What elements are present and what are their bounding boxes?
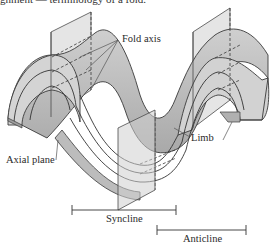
label-limb: Limb — [191, 133, 214, 144]
label-fold-axis: Fold axis — [122, 34, 161, 45]
axial-plane-middle — [118, 110, 155, 210]
label-syncline: Syncline — [106, 214, 143, 225]
label-anticline: Anticline — [183, 234, 222, 245]
label-axial-plane: Axial plane — [6, 155, 55, 166]
